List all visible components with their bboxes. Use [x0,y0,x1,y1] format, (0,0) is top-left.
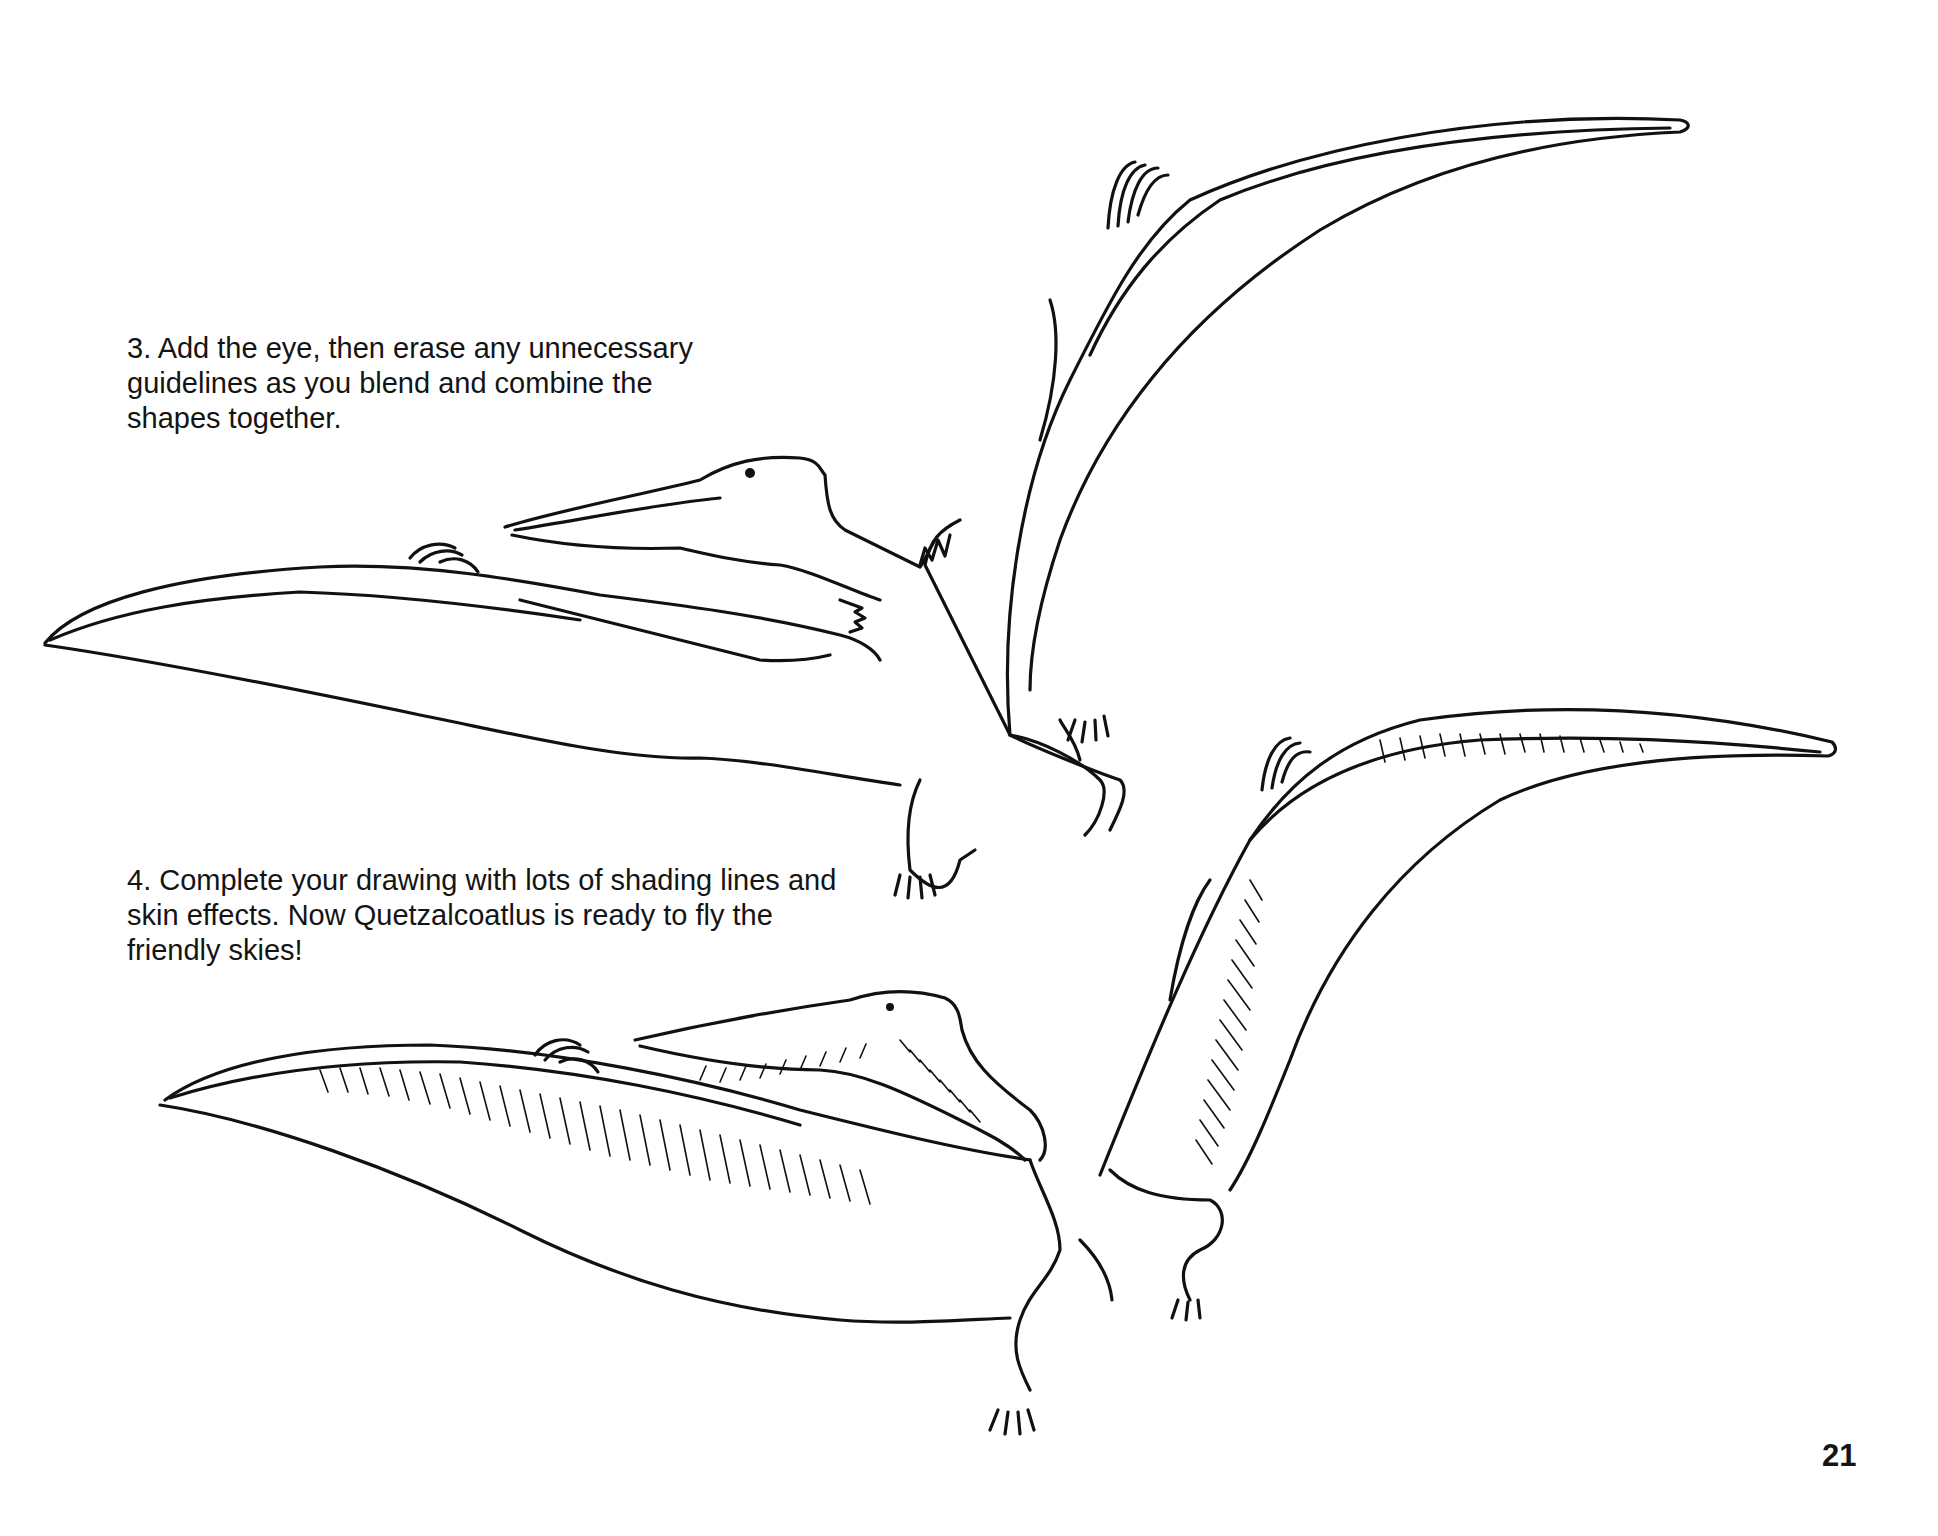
step-4-pterosaur-drawing [160,710,1835,1434]
shading-hatching [320,734,1643,1204]
eye-icon [886,1003,894,1011]
step-3-pterosaur-drawing [45,118,1688,898]
illustrations [0,0,1938,1536]
eye-icon [745,468,755,478]
bottom-right-wing [1100,710,1835,1190]
top-head [505,457,935,567]
bottom-left-wing [165,1045,1030,1160]
top-left-wing [45,566,880,660]
bottom-head [635,991,1045,1160]
